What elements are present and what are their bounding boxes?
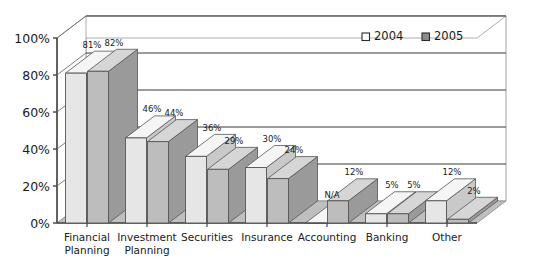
- y-axis-label-100: 100%: [14, 31, 50, 46]
- bar-2004-2-front: [186, 156, 207, 223]
- category-label-6: Other: [432, 231, 462, 243]
- y-axis-label-0: 0%: [30, 216, 50, 231]
- value-label-2005-5: 5%: [407, 180, 421, 190]
- bar-2005-1-front: [148, 142, 169, 223]
- value-label-2004-1: 46%: [142, 104, 161, 114]
- value-label-2005-2: 29%: [224, 136, 243, 146]
- bar-2005-4-front: [328, 201, 349, 223]
- category-label-2: Securities: [181, 231, 233, 243]
- bar-2005-6-front: [448, 219, 469, 223]
- value-label-2004-2: 36%: [202, 123, 221, 133]
- y-axis-label-60: 60%: [22, 105, 50, 120]
- value-label-2004-6: 12%: [442, 167, 461, 177]
- bar-2005-0-front: [88, 71, 109, 223]
- bar-2005-2-front: [208, 169, 229, 223]
- value-label-2005-0: 82%: [104, 38, 123, 48]
- category-label-3: Insurance: [241, 231, 293, 243]
- value-label-2004-0: 81%: [82, 40, 101, 50]
- legend-label-2004: 2004: [374, 29, 403, 43]
- category-label-0: Financial: [64, 231, 110, 243]
- value-label-2005-4: 12%: [344, 167, 363, 177]
- y-axis-label-20: 20%: [22, 179, 50, 194]
- legend-label-2005: 2005: [434, 29, 463, 43]
- bar-2004-0-front: [66, 73, 87, 223]
- y-axis-label-80: 80%: [22, 68, 50, 83]
- bar-2004-6-front: [426, 201, 447, 223]
- chart-canvas: 0%20%40%60%80%100%81%82%FinancialPlannin…: [0, 0, 536, 269]
- value-label-2005-1: 44%: [164, 108, 183, 118]
- bar-2004-5-front: [366, 214, 387, 223]
- value-label-2004-4: N/A: [324, 190, 339, 200]
- category-label-5: Banking: [366, 231, 409, 243]
- category-label-1: Investment: [117, 231, 176, 243]
- category-label-1-line2: Planning: [124, 244, 169, 256]
- bar-2004-3-front: [246, 168, 267, 224]
- value-label-2005-6: 2%: [467, 186, 481, 196]
- legend-swatch-2005: [422, 33, 430, 41]
- category-label-4: Accounting: [298, 231, 357, 243]
- legend-swatch-2004: [362, 33, 370, 41]
- value-label-2005-3: 24%: [284, 145, 303, 155]
- bar-2005-3-front: [268, 179, 289, 223]
- bar-2005-5-front: [388, 214, 409, 223]
- bar-2004-1-front: [126, 138, 147, 223]
- value-label-2004-3: 30%: [262, 134, 281, 144]
- category-label-0-line2: Planning: [64, 244, 109, 256]
- y-axis-label-40: 40%: [22, 142, 50, 157]
- bar-chart: 0%20%40%60%80%100%81%82%FinancialPlannin…: [0, 0, 536, 269]
- value-label-2004-5: 5%: [385, 180, 399, 190]
